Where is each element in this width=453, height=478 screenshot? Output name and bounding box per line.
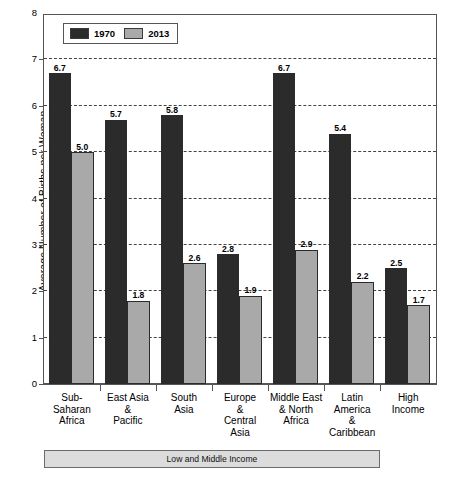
bar-2013[interactable]: 1.7 xyxy=(407,305,430,384)
bar-2013[interactable]: 2.9 xyxy=(295,250,318,384)
legend-item-1970: 1970 xyxy=(70,28,115,39)
bar-group: 2.51.7 xyxy=(382,15,437,384)
bar-1970[interactable]: 2.8 xyxy=(217,254,240,384)
bar-value-label: 5.0 xyxy=(76,142,88,152)
x-category-label-line: Asia xyxy=(205,427,276,439)
x-category-label-line: Caribbean xyxy=(317,427,388,439)
legend-item-2013: 2013 xyxy=(124,28,169,39)
bar-value-label: 1.9 xyxy=(245,285,257,295)
y-tick-label-7: 7 xyxy=(32,55,37,65)
bar-1970[interactable]: 5.4 xyxy=(329,134,352,384)
x-tick xyxy=(212,385,213,391)
bar-group: 2.81.9 xyxy=(214,15,269,384)
x-tick xyxy=(100,385,101,391)
bar-chart-figure: Average Number of Births per Woman 01234… xyxy=(0,0,453,478)
bar-group: 6.72.9 xyxy=(270,15,325,384)
bracket-label: Low and Middle Income xyxy=(167,454,258,464)
x-category-label-line: & xyxy=(317,415,388,427)
x-tick xyxy=(268,385,269,391)
bar-groups: 6.75.05.71.85.82.62.81.96.72.95.42.22.51… xyxy=(44,15,436,384)
x-category-label: HighIncome xyxy=(373,392,444,415)
bar-value-label: 1.8 xyxy=(132,290,144,300)
y-tick-label-4: 4 xyxy=(32,194,37,204)
bar-group: 5.71.8 xyxy=(102,15,157,384)
y-tick-label-0: 0 xyxy=(32,379,37,389)
bar-value-label: 2.8 xyxy=(222,244,234,254)
bar-2013[interactable]: 5.0 xyxy=(71,152,94,384)
y-tick-label-2: 2 xyxy=(32,287,37,297)
bar-1970[interactable]: 5.8 xyxy=(161,115,184,384)
bar-group: 5.82.6 xyxy=(158,15,213,384)
bar-group: 5.42.2 xyxy=(326,15,381,384)
y-tick-label-8: 8 xyxy=(32,8,37,18)
bar-1970[interactable]: 6.7 xyxy=(273,73,296,384)
legend-swatch-1970 xyxy=(70,28,89,39)
bar-1970[interactable]: 5.7 xyxy=(105,120,128,384)
x-tick xyxy=(324,385,325,391)
bar-2013[interactable]: 2.6 xyxy=(183,263,206,384)
chart-legend: 1970 2013 xyxy=(63,23,178,44)
low-and-middle-income-bracket: Low and Middle Income xyxy=(44,450,380,468)
bar-1970[interactable]: 2.5 xyxy=(385,268,408,384)
y-tick-label-1: 1 xyxy=(32,333,37,343)
x-category-label-line: Income xyxy=(373,404,444,416)
bar-2013[interactable]: 2.2 xyxy=(351,282,374,384)
x-tick xyxy=(380,385,381,391)
bar-value-label: 1.7 xyxy=(413,295,425,305)
bar-value-label: 2.9 xyxy=(301,239,313,249)
y-tick-mark-0 xyxy=(39,384,44,385)
bar-value-label: 6.7 xyxy=(278,63,290,73)
legend-swatch-2013 xyxy=(124,28,143,39)
bar-value-label: 2.5 xyxy=(390,258,402,268)
bar-2013[interactable]: 1.8 xyxy=(127,301,150,384)
bar-2013[interactable]: 1.9 xyxy=(239,296,262,384)
y-tick-label-3: 3 xyxy=(32,240,37,250)
plot-area: 012345678 6.75.05.71.85.82.62.81.96.72.9… xyxy=(43,14,437,385)
bar-value-label: 5.4 xyxy=(334,123,346,133)
bar-value-label: 2.2 xyxy=(357,271,369,281)
legend-label-2013: 2013 xyxy=(148,28,169,39)
bar-value-label: 5.7 xyxy=(110,109,122,119)
legend-label-1970: 1970 xyxy=(94,28,115,39)
bar-value-label: 6.7 xyxy=(54,63,66,73)
bar-value-label: 5.8 xyxy=(166,105,178,115)
x-category-label-line: Pacific xyxy=(93,415,164,427)
x-tick xyxy=(156,385,157,391)
y-tick-label-5: 5 xyxy=(32,147,37,157)
x-category-label-line: High xyxy=(373,392,444,404)
y-tick-label-6: 6 xyxy=(32,101,37,111)
bar-value-label: 2.6 xyxy=(188,253,200,263)
bar-1970[interactable]: 6.7 xyxy=(49,73,72,384)
bar-group: 6.75.0 xyxy=(46,15,101,384)
